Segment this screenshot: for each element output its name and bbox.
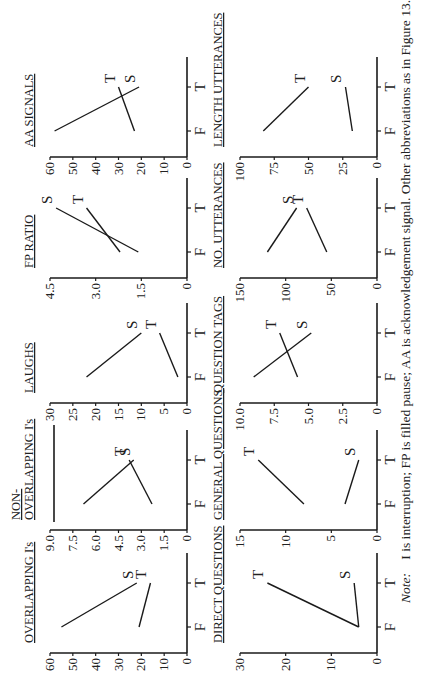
y-tick-label: 10 xyxy=(156,658,171,671)
y-tick-label: 25 xyxy=(335,162,350,175)
series-line-T xyxy=(87,208,120,252)
chart-title: FP RATIO xyxy=(22,215,36,268)
x-tick-label: F xyxy=(382,248,398,256)
chart-title: GENERAL QUESTIONS xyxy=(211,390,225,520)
series-line-S xyxy=(87,333,142,377)
chart-title: DIRECT QUESTIONS xyxy=(211,525,225,643)
series-line-S xyxy=(354,583,359,627)
y-tick-label: 30 xyxy=(42,408,57,421)
x-tick-label: T xyxy=(192,328,208,337)
y-tick-label: 10 xyxy=(278,535,293,548)
y-tick-label: 50 xyxy=(65,162,80,175)
y-tick-label: 0 xyxy=(369,283,384,290)
chart-title: OVERLAPPING I's xyxy=(22,542,36,643)
chart-panel-3: LAUGHS051015202530FTST xyxy=(22,303,208,421)
note-label: Note: xyxy=(398,573,413,604)
y-tick-label: 10 xyxy=(156,162,171,175)
x-tick-label: F xyxy=(382,500,398,508)
series-label-S: S xyxy=(337,571,353,579)
x-tick-label: T xyxy=(382,578,398,587)
series-label-T: T xyxy=(112,447,128,456)
x-tick-label: F xyxy=(192,623,208,631)
y-tick-label: 0 xyxy=(179,408,194,415)
y-tick-label: 10 xyxy=(323,658,338,671)
series-label-S: S xyxy=(39,196,55,204)
x-tick-label: T xyxy=(192,455,208,464)
y-tick-label: 30 xyxy=(111,658,126,671)
y-tick-label: 1.5 xyxy=(156,535,171,551)
series-label-S: S xyxy=(124,321,140,329)
series-label-T: T xyxy=(133,570,149,579)
chart-panel-9: NO. UTTERANCES050100150FTST xyxy=(211,162,398,302)
rotated-figure: OVERLAPPING I's0102030405060FTSTNON-OVER… xyxy=(0,0,423,698)
x-tick-label: F xyxy=(382,127,398,135)
y-tick-label: 60 xyxy=(42,162,57,175)
y-tick-label: 50 xyxy=(323,283,338,296)
chart-title: LAUGHS xyxy=(22,342,36,393)
x-tick-label: T xyxy=(382,203,398,212)
chart-panel-2: NON-OVERLAPPING I's01.53.04.56.07.59.0FT… xyxy=(9,419,208,552)
y-tick-label: 60 xyxy=(42,658,57,671)
chart-title: OVERLAPPING I's xyxy=(22,419,36,520)
y-tick-label: 30 xyxy=(232,658,247,671)
chart-title: AA SIGNALS xyxy=(22,74,36,147)
chart-title: NO. UTTERANCES xyxy=(211,162,225,268)
series-label-S: S xyxy=(294,321,310,329)
y-tick-label: 50 xyxy=(301,162,316,175)
series-line-S xyxy=(56,208,138,252)
y-tick-label: 5 xyxy=(156,408,171,415)
series-label-S: S xyxy=(122,75,138,83)
y-tick-label: 3.0 xyxy=(88,283,103,299)
note-text: I is interruption; FP is filled pause; A… xyxy=(398,0,413,560)
series-line-S xyxy=(83,460,133,504)
y-tick-label: 9.0 xyxy=(42,535,57,551)
series-line-T xyxy=(263,87,308,131)
x-tick-label: F xyxy=(382,623,398,631)
x-tick-label: T xyxy=(382,82,398,91)
series-label-T: T xyxy=(143,320,159,329)
y-tick-label: 30 xyxy=(111,162,126,175)
y-tick-label: 3.0 xyxy=(133,535,148,551)
x-tick-label: T xyxy=(382,455,398,464)
figure-note: Note: I is interruption; FP is filled pa… xyxy=(398,0,413,604)
series-label-T: T xyxy=(250,570,266,579)
series-line-T xyxy=(160,333,178,377)
chart-title: LENGTH UTTERANCES xyxy=(211,13,225,147)
y-tick-label: 5.0 xyxy=(301,408,316,424)
series-label-T: T xyxy=(292,74,308,83)
x-tick-label: F xyxy=(192,248,208,256)
y-tick-label: 0 xyxy=(179,283,194,290)
y-tick-label: 7.5 xyxy=(65,535,80,551)
y-tick-label: 0 xyxy=(369,408,384,415)
series-label-S: S xyxy=(328,75,344,83)
y-tick-label: 2.5 xyxy=(335,408,350,424)
x-tick-label: F xyxy=(382,373,398,381)
series-line-T xyxy=(258,460,304,504)
y-tick-label: 10 xyxy=(133,408,148,421)
x-tick-label: T xyxy=(192,578,208,587)
chart-panel-1: OVERLAPPING I's0102030405060FTST xyxy=(22,542,208,671)
figure-canvas: OVERLAPPING I's0102030405060FTSTNON-OVER… xyxy=(0,0,423,698)
series-line-T xyxy=(307,208,327,252)
x-tick-label: F xyxy=(192,373,208,381)
y-tick-label: 7.5 xyxy=(266,408,281,424)
series-line-S xyxy=(267,208,296,252)
y-tick-label: 20 xyxy=(88,408,103,421)
chart-panel-10: LENGTH UTTERANCES0255075100FTTS xyxy=(211,13,398,182)
series-line-T xyxy=(129,460,152,504)
series-label-T: T xyxy=(263,320,279,329)
y-tick-label: 0 xyxy=(369,162,384,169)
y-tick-label: 4.5 xyxy=(42,283,57,299)
y-tick-label: 100 xyxy=(278,283,293,303)
y-tick-label: 0 xyxy=(179,658,194,665)
y-tick-label: 25 xyxy=(65,408,80,421)
y-tick-label: 6.0 xyxy=(88,535,103,551)
y-tick-label: 0 xyxy=(179,162,194,169)
series-label-T: T xyxy=(102,74,118,83)
y-tick-label: 40 xyxy=(88,658,103,671)
x-tick-label: T xyxy=(192,82,208,91)
chart-title: NON- xyxy=(9,489,23,520)
x-tick-label: F xyxy=(192,127,208,135)
chart-panel-5: AA SIGNALS0102030405060FTST xyxy=(22,57,208,175)
y-tick-label: 20 xyxy=(133,658,148,671)
